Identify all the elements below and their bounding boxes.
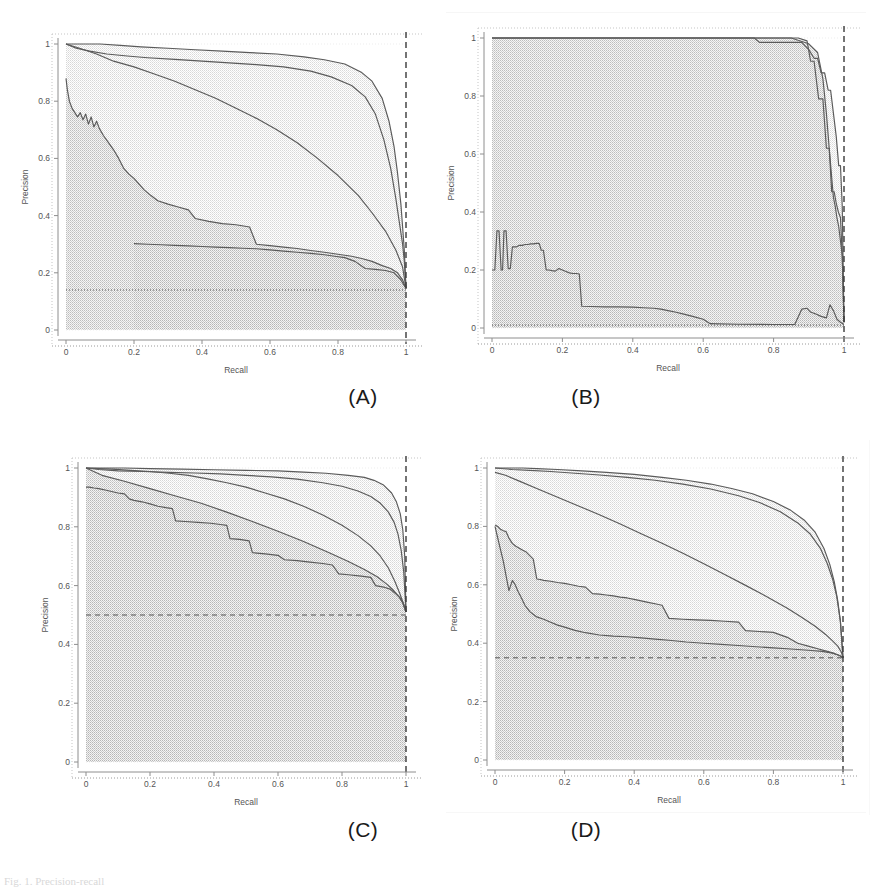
y-tick-label: 0.2 (38, 268, 50, 278)
y-axis-title: Precision (20, 169, 30, 204)
y-tick-label: 0.6 (58, 581, 70, 591)
panel-c: 00.20.40.60.8100.20.40.60.81RecallPrecis… (14, 440, 434, 812)
scan-artifact-top (446, 12, 866, 13)
y-tick-label: 1 (45, 39, 50, 49)
y-tick-label: 0 (471, 323, 476, 333)
x-tick-label: 1 (404, 779, 409, 789)
panel-d-caption: (D) (556, 818, 616, 842)
x-tick-label: 0.4 (627, 345, 639, 355)
x-tick-label: 0.2 (559, 777, 571, 787)
x-tick-label: 1 (841, 777, 846, 787)
panel-a-chart: 00.20.40.60.8100.20.40.60.81RecallPrecis… (14, 8, 434, 380)
x-tick-label: 0.2 (144, 779, 156, 789)
panel-d-chart: 00.20.40.60.8100.20.40.60.81RecallPrecis… (440, 440, 880, 812)
x-tick-label: 0.8 (336, 779, 348, 789)
y-tick-label: 0.2 (464, 265, 476, 275)
x-tick-label: 0.4 (196, 347, 208, 357)
panel-b-chart: 00.20.40.60.8100.20.40.60.81RecallPrecis… (440, 8, 880, 380)
x-axis-title: Recall (656, 363, 680, 373)
x-tick-label: 0 (84, 779, 89, 789)
y-tick-label: 0.6 (464, 149, 476, 159)
y-tick-label: 0.6 (467, 580, 479, 590)
x-tick-label: 0.4 (628, 777, 640, 787)
panel-b: 00.20.40.60.8100.20.40.60.81RecallPrecis… (440, 8, 880, 380)
x-tick-label: 0.8 (767, 777, 779, 787)
x-tick-label: 0.4 (208, 779, 220, 789)
y-axis-title: Precision (40, 597, 50, 632)
x-tick-label: 0.6 (698, 777, 710, 787)
y-tick-label: 0.4 (58, 639, 70, 649)
x-tick-label: 0.2 (556, 345, 568, 355)
figure-caption: Fig. 1. Precision-recall (4, 875, 104, 887)
x-tick-label: 0.8 (332, 347, 344, 357)
y-axis-title: Precision (446, 165, 456, 200)
x-tick-label: 0.6 (264, 347, 276, 357)
y-tick-label: 1 (471, 33, 476, 43)
x-tick-label: 0.8 (768, 345, 780, 355)
x-tick-label: 0.2 (128, 347, 140, 357)
x-tick-label: 1 (404, 347, 409, 357)
panel-d: 00.20.40.60.8100.20.40.60.81RecallPrecis… (440, 440, 880, 812)
x-axis-title: Recall (234, 797, 258, 807)
scan-artifact-right (869, 440, 870, 815)
x-axis-title: Recall (657, 795, 681, 805)
panel-a: 00.20.40.60.8100.20.40.60.81RecallPrecis… (14, 8, 434, 380)
panel-b-caption: (B) (556, 385, 616, 409)
panel-c-caption: (C) (333, 818, 393, 842)
y-tick-label: 0.8 (38, 96, 50, 106)
x-tick-label: 0 (493, 777, 498, 787)
y-tick-label: 0.6 (38, 153, 50, 163)
y-axis-title: Precision (449, 596, 459, 631)
y-tick-label: 0.2 (467, 697, 479, 707)
y-tick-label: 0 (474, 755, 479, 765)
y-tick-label: 0.8 (464, 91, 476, 101)
y-tick-label: 0.4 (464, 207, 476, 217)
y-tick-label: 1 (65, 463, 70, 473)
y-tick-label: 0 (45, 325, 50, 335)
x-tick-label: 1 (842, 345, 847, 355)
y-tick-label: 0.4 (38, 211, 50, 221)
y-tick-label: 0.8 (467, 521, 479, 531)
x-tick-label: 0 (64, 347, 69, 357)
x-tick-label: 0.6 (697, 345, 709, 355)
y-tick-label: 0.8 (58, 522, 70, 532)
y-tick-label: 0.4 (467, 638, 479, 648)
x-tick-label: 0 (490, 345, 495, 355)
x-tick-label: 0.6 (272, 779, 284, 789)
panel-c-chart: 00.20.40.60.8100.20.40.60.81RecallPrecis… (14, 440, 434, 812)
figure-root: 00.20.40.60.8100.20.40.60.81RecallPrecis… (0, 0, 886, 889)
y-tick-label: 1 (474, 463, 479, 473)
x-axis-title: Recall (224, 365, 248, 375)
panel-a-caption: (A) (333, 385, 393, 409)
y-tick-label: 0 (65, 757, 70, 767)
scan-artifact-bottom (446, 812, 866, 813)
y-tick-label: 0.2 (58, 698, 70, 708)
